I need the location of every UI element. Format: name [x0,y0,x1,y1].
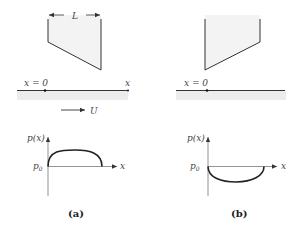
origin-dot [44,89,47,92]
pressure-graph-a: p(x) p0 x [27,133,125,196]
x-axis-label: x [281,161,286,171]
origin-label: x = 0 [184,78,208,88]
wall-b: x = 0 [176,78,286,100]
pressure-curve [48,150,102,167]
length-label: L [71,11,78,21]
baseline-label: p0 [33,161,43,172]
wall-a: x = 0 x U [17,78,130,116]
y-axis-label: p(x) [27,133,45,143]
panel-b: x = 0 p(x) p0 x (b) [176,15,286,219]
lubrication-diagram: L x = 0 x U p(x) p0 x (a) [0,0,299,234]
origin-dot [206,89,209,92]
y-axis-label: p(x) [187,133,205,143]
panel-a: L x = 0 x U p(x) p0 x (a) [17,11,130,219]
wedge-a [48,15,101,70]
caption-b: (b) [231,208,247,219]
pressure-graph-b: p(x) p0 x [187,133,286,196]
baseline-label: p0 [190,161,200,172]
x-axis-label: x [120,161,125,171]
wedge-b [205,15,260,70]
wall-axis-label: x [125,78,130,88]
velocity-label: U [90,106,98,116]
origin-label: x = 0 [24,78,48,88]
caption-a: (a) [68,208,84,219]
pressure-curve [208,167,264,183]
